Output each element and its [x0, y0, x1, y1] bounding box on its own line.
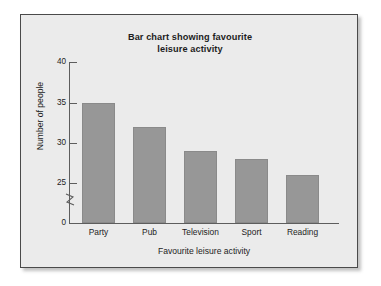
y-tick-30 — [70, 143, 77, 144]
x-tick-label-reading: Reading — [273, 227, 332, 237]
bar-television[interactable] — [184, 151, 217, 223]
y-axis-title: Number of people — [35, 56, 45, 176]
y-tick-35 — [70, 103, 77, 104]
y-tick-label-35: 35 — [26, 98, 66, 107]
bar-party[interactable] — [82, 103, 115, 223]
bar-sport[interactable] — [235, 159, 268, 223]
bar-chart-panel: Bar chart showing favourite leisure acti… — [20, 14, 358, 268]
axis-break-icon — [64, 193, 76, 207]
bar-reading[interactable] — [286, 175, 319, 223]
x-axis-title: Favourite leisure activity — [69, 246, 339, 256]
y-tick-label-30: 30 — [26, 138, 66, 147]
y-tick-label-40: 40 — [26, 57, 66, 66]
y-tick-label-25: 25 — [26, 178, 66, 187]
y-tick-40 — [70, 62, 77, 63]
plot-area: 40 35 30 25 0 Number of people Favourite… — [21, 15, 359, 269]
y-tick-25 — [70, 183, 77, 184]
bar-pub[interactable] — [133, 127, 166, 223]
figure-root: Bar chart showing favourite leisure acti… — [0, 0, 381, 286]
y-tick-label-0: 0 — [26, 218, 66, 227]
